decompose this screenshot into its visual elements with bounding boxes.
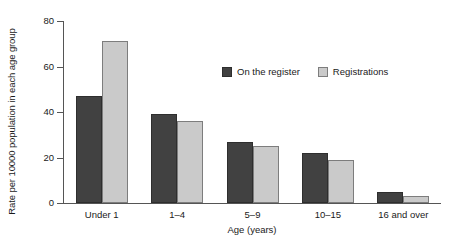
y-axis-tick-label: 60 (8, 62, 54, 72)
bar (102, 41, 128, 203)
plot-area (64, 21, 441, 203)
bar (227, 142, 253, 203)
bar (302, 153, 328, 203)
y-axis-tick-mark (57, 158, 63, 159)
y-axis-tick-label: 40 (8, 107, 54, 117)
bar-group (151, 21, 203, 203)
y-axis-tick: 0 (0, 203, 63, 204)
y-axis-title-text: Rate per 10000 population in each age gr… (6, 28, 17, 214)
legend-entry: On the register (222, 66, 300, 77)
y-axis-tick: 40 (0, 112, 63, 113)
bar (403, 196, 429, 203)
x-axis-line (63, 203, 441, 204)
bar-group (377, 21, 429, 203)
y-axis-tick-mark (57, 21, 63, 22)
bar (328, 160, 354, 203)
legend-label: On the register (237, 66, 300, 77)
x-axis-title-text: Age (years) (227, 224, 276, 235)
legend-swatch-icon (222, 67, 232, 77)
x-axis-tick-label: 16 and over (353, 209, 452, 220)
bar (177, 121, 203, 203)
bar-group (302, 21, 354, 203)
y-axis-tick: 20 (0, 158, 63, 159)
bar (151, 114, 177, 203)
legend-swatch-icon (318, 67, 328, 77)
y-axis-tick-label: 20 (8, 153, 54, 163)
chart-legend: On the registerRegistrations (222, 66, 388, 77)
y-axis-tick-label: 80 (8, 16, 54, 26)
bar (253, 146, 279, 203)
y-axis-tick: 80 (0, 21, 63, 22)
y-axis-tick-mark (57, 67, 63, 68)
y-axis-tick-mark (57, 203, 63, 204)
bar-chart: Rate per 10000 population in each age gr… (0, 0, 452, 243)
y-axis-tick: 60 (0, 67, 63, 68)
bar (377, 192, 403, 203)
legend-label: Registrations (333, 66, 388, 77)
bar (76, 96, 102, 203)
y-axis-tick-label: 0 (8, 198, 54, 208)
legend-entry: Registrations (318, 66, 388, 77)
bar-group (76, 21, 128, 203)
bar-group (227, 21, 279, 203)
x-axis-title: Age (years) (63, 224, 441, 235)
y-axis-tick-mark (57, 112, 63, 113)
